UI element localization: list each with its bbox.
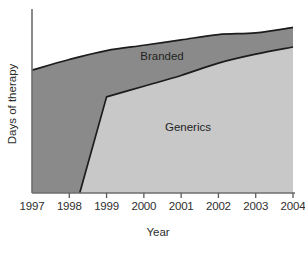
x-axis-tick-labels: 19971998199920002001200220032004 (20, 200, 305, 212)
x-axis-label-2004: 2004 (281, 200, 305, 212)
x-axis-title: Year (146, 226, 169, 238)
generics-series-label: Generics (165, 121, 211, 133)
stacked-area-chart: 19971998199920002001200220032004 Year Da… (0, 0, 305, 253)
chart-container: 19971998199920002001200220032004 Year Da… (0, 0, 305, 253)
branded-series-label: Branded (140, 50, 183, 62)
x-axis-label-2003: 2003 (243, 200, 268, 212)
x-axis-label-1999: 1999 (94, 200, 119, 212)
x-axis-label-2002: 2002 (206, 200, 231, 212)
x-axis-label-1998: 1998 (57, 200, 82, 212)
x-axis-label-2000: 2000 (131, 200, 156, 212)
x-axis-label-2001: 2001 (169, 200, 194, 212)
y-axis-title: Days of therapy (6, 63, 18, 144)
x-axis-label-1997: 1997 (20, 200, 45, 212)
